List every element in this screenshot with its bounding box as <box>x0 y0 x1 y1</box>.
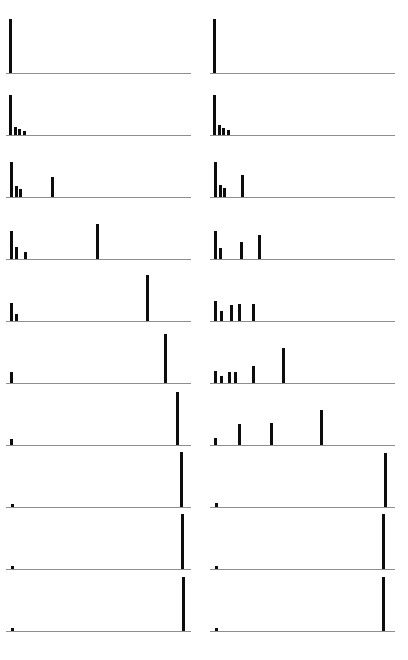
spike-bar <box>176 392 179 445</box>
spike-bar <box>10 303 13 321</box>
panel-baseline-axis <box>210 631 395 632</box>
spike-bar <box>10 231 13 259</box>
spike-panel <box>6 142 191 198</box>
spike-bar <box>11 504 14 507</box>
spike-bar <box>219 248 222 259</box>
spike-bar <box>252 366 255 383</box>
panel-baseline-axis <box>210 383 395 384</box>
spike-bar <box>220 311 223 321</box>
spike-bar <box>234 372 237 383</box>
spike-bar <box>241 175 244 197</box>
spike-bar <box>220 376 223 383</box>
spike-bar <box>223 188 226 197</box>
panel-baseline-axis <box>6 73 191 74</box>
spike-bar <box>382 514 385 569</box>
panel-baseline-axis <box>6 631 191 632</box>
spike-panel <box>6 328 191 384</box>
spike-bar <box>181 514 184 569</box>
spike-panel <box>6 80 191 136</box>
panel-baseline-axis <box>210 507 395 508</box>
spike-bar <box>164 334 167 383</box>
panel-baseline-axis <box>6 383 191 384</box>
panel-baseline-axis <box>210 135 395 136</box>
spike-panel <box>210 390 395 446</box>
spike-bar <box>382 577 385 631</box>
spike-panel <box>210 452 395 508</box>
spike-panel <box>210 266 395 322</box>
spike-bar <box>11 628 14 631</box>
spike-bar <box>213 19 216 73</box>
spike-bar <box>252 304 255 321</box>
spike-bar <box>23 131 26 135</box>
spike-bar <box>258 235 261 259</box>
panel-baseline-axis <box>6 507 191 508</box>
spike-bar <box>214 162 217 197</box>
spike-bar <box>14 127 17 135</box>
spike-panel <box>6 204 191 260</box>
panel-baseline-axis <box>210 73 395 74</box>
spike-bar <box>228 372 231 383</box>
spike-bar <box>219 185 222 197</box>
spike-histogram-grid <box>0 0 408 660</box>
spike-panel <box>6 390 191 446</box>
spike-panel <box>210 18 395 74</box>
panel-baseline-axis <box>210 569 395 570</box>
spike-panel <box>6 452 191 508</box>
spike-bar <box>270 423 273 445</box>
spike-bar <box>238 424 241 445</box>
spike-bar <box>215 566 218 569</box>
spike-bar <box>240 242 243 259</box>
spike-panel <box>210 80 395 136</box>
spike-bar <box>96 224 99 259</box>
spike-bar <box>214 231 217 259</box>
spike-panel <box>210 142 395 198</box>
spike-bar <box>146 275 149 321</box>
spike-bar <box>227 130 230 135</box>
spike-panel <box>210 328 395 384</box>
panel-baseline-axis <box>210 445 395 446</box>
spike-bar <box>10 439 13 445</box>
spike-bar <box>218 125 221 135</box>
panel-baseline-axis <box>6 197 191 198</box>
spike-panel <box>6 514 191 570</box>
spike-bar <box>19 189 22 197</box>
spike-bar <box>320 410 323 445</box>
spike-bar <box>182 577 185 631</box>
spike-bar <box>15 186 18 197</box>
spike-bar <box>180 452 183 507</box>
panel-baseline-axis <box>210 197 395 198</box>
spike-bar <box>222 128 225 135</box>
panel-baseline-axis <box>210 259 395 260</box>
spike-bar <box>215 503 218 507</box>
spike-bar <box>11 566 14 569</box>
spike-bar <box>9 19 12 73</box>
spike-panel <box>210 204 395 260</box>
panel-baseline-axis <box>6 569 191 570</box>
spike-bar <box>10 162 13 197</box>
spike-bar <box>15 314 18 321</box>
spike-bar <box>214 371 217 383</box>
panel-baseline-axis <box>6 445 191 446</box>
panel-baseline-axis <box>210 321 395 322</box>
spike-panel <box>6 18 191 74</box>
spike-panel <box>6 266 191 322</box>
spike-bar <box>9 95 12 135</box>
spike-bar <box>214 438 217 445</box>
spike-bar <box>230 305 233 321</box>
spike-panel <box>6 576 191 632</box>
spike-bar <box>213 95 216 135</box>
spike-panel <box>210 576 395 632</box>
spike-bar <box>238 304 241 321</box>
spike-bar <box>24 252 27 259</box>
panel-baseline-axis <box>6 259 191 260</box>
spike-bar <box>10 372 13 383</box>
spike-bar <box>18 129 21 135</box>
spike-bar <box>215 628 218 631</box>
spike-panel <box>210 514 395 570</box>
panel-baseline-axis <box>6 321 191 322</box>
spike-bar <box>384 453 387 507</box>
panel-baseline-axis <box>6 135 191 136</box>
spike-bar <box>15 247 18 259</box>
spike-bar <box>214 301 217 321</box>
spike-bar <box>51 177 54 197</box>
